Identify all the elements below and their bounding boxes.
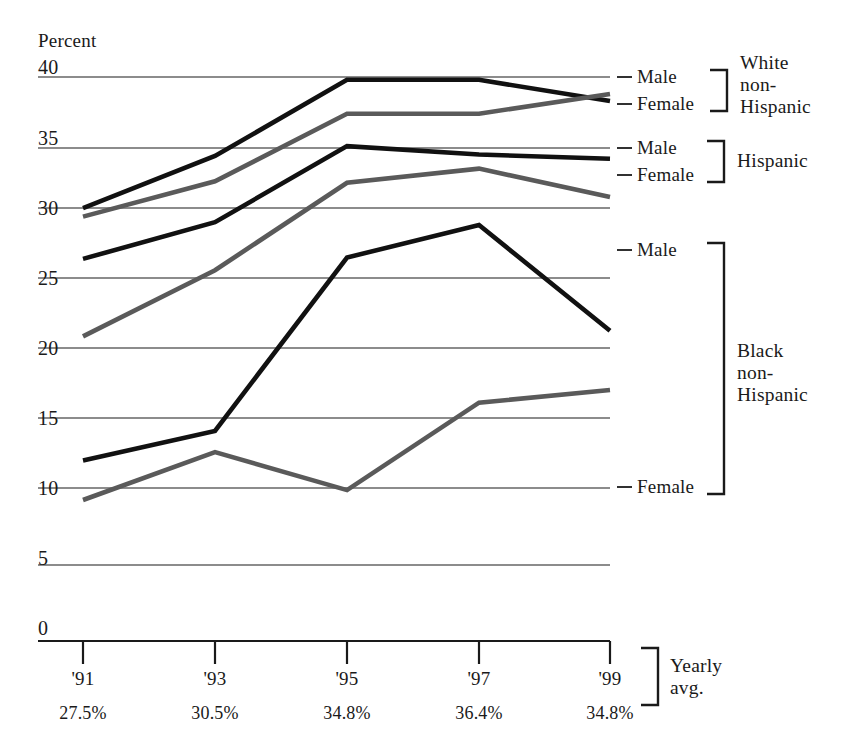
- legend-group-hispanic: Hispanic: [737, 150, 808, 172]
- x-tick-93: '93: [180, 668, 250, 690]
- legend-label-black-female: Female: [637, 476, 694, 498]
- legend-group-black-non-hispanic: Black non- Hispanic: [737, 340, 808, 406]
- x-tick-91: '91: [48, 668, 118, 690]
- data-series-layer: [83, 80, 610, 500]
- gridlines: [38, 77, 610, 565]
- legend-label-white-female: Female: [637, 93, 694, 115]
- legend-label-hispanic-male: Male: [637, 137, 677, 159]
- legend-label-black-male: Male: [637, 239, 677, 261]
- x-tick-97: '97: [444, 668, 514, 690]
- legend-label-white-male: Male: [637, 66, 677, 88]
- legend-label-hispanic-female: Female: [637, 164, 694, 186]
- yearly-avg-99: 34.8%: [565, 703, 655, 724]
- x-axis: [38, 641, 610, 664]
- bracket-black-non-hispanic: [707, 243, 724, 494]
- x-tick-99: '99: [575, 668, 645, 690]
- yearly-avg-91: 27.5%: [38, 703, 128, 724]
- yearly-avg-label: Yearly avg.: [670, 655, 722, 699]
- yearly-avg-93: 30.5%: [170, 703, 260, 724]
- bracket-hispanic: [707, 141, 724, 182]
- yearly-avg-97: 36.4%: [434, 703, 524, 724]
- series-line-black-non-hispanic-male: [83, 225, 610, 461]
- x-tick-95: '95: [312, 668, 382, 690]
- legend-group-white-non-hispanic: White non- Hispanic: [740, 52, 811, 118]
- legend-leader-dashes: [617, 77, 632, 487]
- yearly-avg-95: 34.8%: [302, 703, 392, 724]
- chart-plot-area: [0, 0, 856, 753]
- series-line-hispanic-male: [83, 146, 610, 259]
- bracket-white-non-hispanic: [710, 70, 727, 111]
- chart-figure: Percent 40 35 30 25 20 15 10 5 0: [0, 0, 856, 753]
